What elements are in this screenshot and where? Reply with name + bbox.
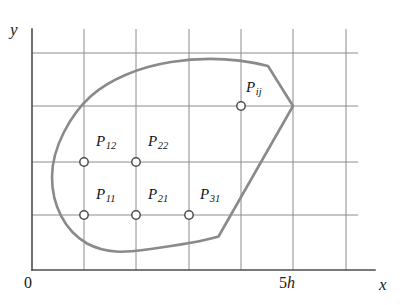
axes <box>32 29 375 270</box>
node-label-P31: P31 <box>200 187 221 205</box>
node-label-base: P <box>96 186 105 202</box>
node-label-subscript: 21 <box>157 193 168 204</box>
node-label-P22: P22 <box>148 134 169 152</box>
node-label-subscript: 11 <box>105 193 116 204</box>
node-P22[interactable] <box>132 158 140 166</box>
grid-horizontal-lines <box>32 53 358 215</box>
node-label-subscript: 22 <box>157 140 168 151</box>
diagram-canvas <box>0 0 403 305</box>
node-P31[interactable] <box>185 211 193 219</box>
x-axis-label: x <box>379 275 387 295</box>
node-label-P21: P21 <box>148 187 169 205</box>
node-label-base: P <box>246 79 255 95</box>
node-label-subscript: 12 <box>105 140 116 151</box>
x-tick-number: 5 <box>279 274 287 291</box>
node-label-P11: P11 <box>96 187 116 205</box>
y-axis-label: y <box>10 20 18 40</box>
grid-vertical-lines <box>84 29 346 270</box>
node-label-subscript: 31 <box>209 193 220 204</box>
node-Pij[interactable] <box>237 102 245 110</box>
node-label-base: P <box>148 133 157 149</box>
node-label-base: P <box>148 186 157 202</box>
node-P12[interactable] <box>80 158 88 166</box>
node-label-base: P <box>96 133 105 149</box>
node-label-Pij: Pij <box>246 80 262 98</box>
node-P21[interactable] <box>132 211 140 219</box>
node-P11[interactable] <box>80 211 88 219</box>
node-label-subscript: ij <box>255 86 262 97</box>
origin-label: 0 <box>24 274 32 292</box>
node-label-base: P <box>200 186 209 202</box>
x-tick-symbol: h <box>287 274 295 291</box>
x-tick-label-5h: 5h <box>279 274 295 292</box>
figure-container: y x 0 5h P12 P22 P11 P21 P31 Pij <box>0 0 403 305</box>
node-label-P12: P12 <box>96 134 117 152</box>
